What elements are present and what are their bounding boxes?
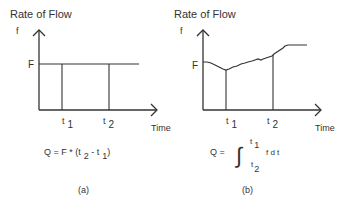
panel-a-y-axis-label: f	[16, 26, 19, 36]
panel-b-y-title: Rate of Flow	[174, 8, 236, 20]
panel-b-caption: (b)	[242, 185, 253, 195]
panel-b-formula: Q = ∫ t1 t2 f d t	[210, 137, 280, 174]
panel-b-x-axis-label: Time	[315, 123, 335, 133]
panel-b-level-label: F	[192, 60, 198, 71]
panel-a-y-title: Rate of Flow	[10, 8, 72, 20]
panel-b-formula-lower: t2	[251, 160, 259, 174]
integral-sign-icon: ∫	[234, 143, 244, 168]
panel-b-t1-label: t1	[226, 116, 238, 130]
panel-b-y-axis-label: f	[180, 26, 183, 36]
panel-b-formula-upper: t1	[250, 137, 259, 150]
panel-a: Rate of Flow f F t1 t2 Time Q = F * (t2 …	[10, 8, 171, 195]
panel-b-formula-integrand: f d t	[266, 148, 280, 157]
panel-b: Rate of Flow f F t1 t2 Time Q = ∫ t1 t2 …	[174, 8, 335, 195]
panel-a-t1-label: t1	[62, 116, 74, 130]
panel-a-t2-label: t2	[103, 116, 115, 130]
panel-b-formula-lhs: Q =	[210, 147, 225, 157]
panel-a-x-axis-label: Time	[151, 123, 171, 133]
panel-b-flow-curve	[203, 45, 307, 70]
flow-diagram: Rate of Flow f F t1 t2 Time Q = F * (t2 …	[0, 0, 347, 210]
panel-a-caption: (a)	[78, 185, 89, 195]
panel-a-formula: Q = F * (t2 - t1)	[44, 147, 110, 161]
panel-a-level-label: F	[28, 59, 34, 70]
panel-b-t2-label: t2	[267, 116, 279, 130]
